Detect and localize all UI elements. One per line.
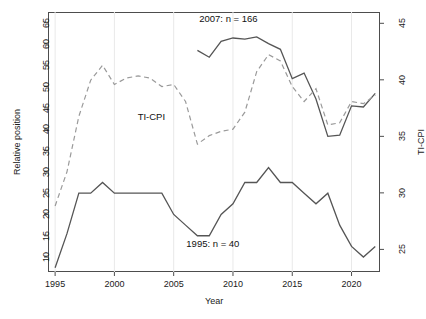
- series-line: [197, 37, 375, 136]
- y-tick-label: 40: [41, 124, 51, 134]
- x-tick-label: 2015: [282, 279, 302, 289]
- y-tick-label: 20: [41, 209, 51, 219]
- x-tick-label: 2000: [104, 279, 124, 289]
- y-tick-label: 35: [41, 146, 51, 156]
- y2-tick-label: 40: [397, 75, 407, 85]
- y-axis-label-left: Relative position: [12, 109, 22, 175]
- series-line: [55, 168, 375, 268]
- y-tick-label: 10: [41, 252, 51, 262]
- y-tick-label: 55: [41, 60, 51, 70]
- y-tick-label: 15: [41, 231, 51, 241]
- y-tick-label: 45: [41, 103, 51, 113]
- x-tick-label: 2010: [223, 279, 243, 289]
- y2-tick-label: 45: [397, 18, 407, 28]
- y-tick-label: 25: [41, 188, 51, 198]
- x-tick-label: 2005: [164, 279, 184, 289]
- chart-figure: 1995200020052010201520201015202530354045…: [0, 0, 426, 319]
- y-tick-label: 30: [41, 167, 51, 177]
- y2-tick-label: 30: [397, 188, 407, 198]
- y-tick-label: 65: [41, 18, 51, 28]
- x-tick-label: 1995: [45, 279, 65, 289]
- chart-annotation: TI-CPI: [138, 111, 165, 122]
- y-axis-label-right: TI-CPI: [416, 129, 426, 155]
- chart-annotation: 1995: n = 40: [186, 238, 239, 249]
- y2-tick-label: 25: [397, 244, 407, 254]
- y-tick-label: 50: [41, 82, 51, 92]
- x-axis-label: Year: [205, 296, 223, 306]
- y-tick-label: 60: [41, 39, 51, 49]
- x-tick-label: 2020: [342, 279, 362, 289]
- chart-canvas: [0, 0, 426, 319]
- y2-tick-label: 35: [397, 131, 407, 141]
- chart-annotation: 2007: n = 166: [199, 13, 257, 24]
